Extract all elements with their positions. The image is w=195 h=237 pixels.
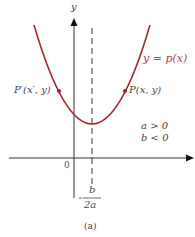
point-p-prime-label: P′(x′, y) <box>14 84 51 95</box>
point-p-prime <box>57 89 61 93</box>
figure-caption: (a) <box>84 221 96 231</box>
parabola-diagram <box>0 0 195 237</box>
point-p-label: P(x, y) <box>129 84 161 95</box>
vertex-denominator: 2a <box>84 199 96 210</box>
curve-label: y = p(x) <box>143 52 187 65</box>
condition-a: a > 0 <box>141 120 168 131</box>
y-axis-label: y <box>71 1 77 12</box>
condition-b: b < 0 <box>141 132 169 143</box>
y-axis-arrow-icon <box>71 18 78 26</box>
x-axis-arrow-icon <box>186 155 194 162</box>
origin-label: 0 <box>64 160 70 170</box>
point-p <box>123 89 127 93</box>
vertex-numerator: b <box>89 184 95 195</box>
